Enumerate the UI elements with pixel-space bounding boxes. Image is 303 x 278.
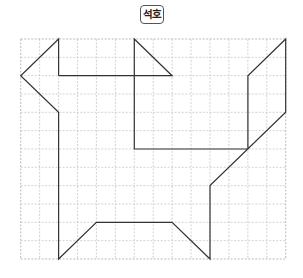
grid-drawing-board: [0, 0, 303, 278]
